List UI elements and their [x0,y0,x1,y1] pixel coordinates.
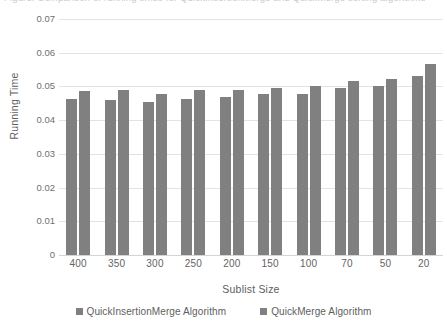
y-axis-tick-label: 0.06 [9,48,55,58]
bar-group [136,19,174,255]
y-axis-tick-label: 0.01 [9,216,55,226]
legend-item[interactable]: QuickMerge Algorithm [260,306,371,317]
bar[interactable] [143,102,154,255]
x-axis-tick-label: 350 [97,258,135,269]
legend-item[interactable]: QuickInsertionMerge Algorithm [76,306,227,317]
legend-square-marker-icon [76,308,83,315]
x-axis-tick-label: 300 [136,258,174,269]
legend-item-label: QuickInsertionMerge Algorithm [87,306,227,317]
x-axis-tick-labels: 400350300250200150100705020 [59,258,443,269]
clipped-title-strip: Figure: Comparison of running times for … [0,0,447,8]
y-axis-tick-label: 0.03 [9,149,55,159]
plot-area [59,19,443,255]
bar[interactable] [258,94,269,255]
bar-group [366,19,404,255]
x-axis-tick-label: 20 [405,258,443,269]
x-axis-tick-label: 400 [59,258,97,269]
gridline [59,255,443,256]
bar-group [251,19,289,255]
bar[interactable] [412,76,423,255]
bar[interactable] [348,81,359,255]
x-axis-tick-label: 150 [251,258,289,269]
bar[interactable] [373,86,384,255]
x-axis-tick-label: 50 [366,258,404,269]
bar[interactable] [233,90,244,255]
bar-group [59,19,97,255]
bar-group [328,19,366,255]
bar[interactable] [297,94,308,255]
bar[interactable] [194,90,205,255]
bar-group [174,19,212,255]
bar-group [405,19,443,255]
bar-group [97,19,135,255]
y-axis-tick-labels: 0.070.060.050.040.030.020.010 [4,19,55,255]
bar[interactable] [220,97,231,255]
bar[interactable] [156,94,167,255]
y-axis-tick-label: 0 [9,250,55,260]
bar[interactable] [66,99,77,255]
bar-group [289,19,327,255]
bar[interactable] [105,100,116,255]
legend: QuickInsertionMerge AlgorithmQuickMerge … [0,306,447,317]
legend-item-label: QuickMerge Algorithm [271,306,371,317]
y-axis-tick-label: 0.05 [9,81,55,91]
bar[interactable] [386,79,397,255]
bar[interactable] [79,91,90,255]
bar-group [213,19,251,255]
y-axis-tick-label: 0.02 [9,183,55,193]
y-axis-tick-label: 0.04 [9,115,55,125]
y-axis-tick-label: 0.07 [9,14,55,24]
bar[interactable] [118,90,129,255]
bar[interactable] [310,86,321,255]
legend-square-marker-icon [260,308,267,315]
bar[interactable] [335,88,346,255]
x-axis-tick-label: 70 [328,258,366,269]
x-axis-title: Sublist Size [59,283,443,295]
x-axis-tick-label: 250 [174,258,212,269]
x-axis-tick-label: 200 [213,258,251,269]
bar[interactable] [271,88,282,255]
x-axis-tick-label: 100 [289,258,327,269]
bar-groups [59,19,443,255]
bar[interactable] [181,99,192,255]
bar-chart: Figure: Comparison of running times for … [0,0,447,328]
clipped-title-text: Figure: Comparison of running times for … [4,0,426,3]
bar[interactable] [425,64,436,255]
